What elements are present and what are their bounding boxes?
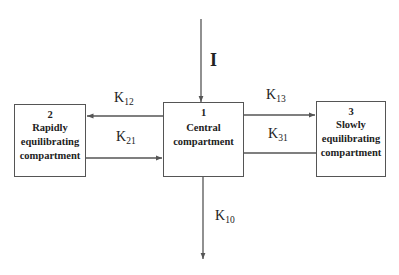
compartment-label-line: compartment: [321, 146, 382, 160]
compartment-number: 2: [47, 108, 52, 121]
compartment-3-slowly-equilibrating: 3 Slowly equilibrating compartment: [316, 101, 386, 177]
compartment-number: 3: [348, 105, 353, 118]
compartment-label-line: compartment: [20, 149, 81, 163]
compartment-label-line: compartment: [173, 135, 234, 149]
input-label: I: [210, 50, 217, 71]
rate-constant-k31: K31: [268, 126, 288, 146]
rate-constant-k13: K13: [266, 87, 286, 107]
compartment-1-central: 1 Central compartment: [163, 102, 244, 177]
compartment-label-line: equilibrating: [21, 135, 79, 149]
compartment-2-rapidly-equilibrating: 2 Rapidly equilibrating compartment: [14, 104, 86, 177]
compartment-label-line: Rapidly: [32, 121, 68, 135]
compartment-label-line: Slowly: [336, 118, 366, 132]
compartment-number: 1: [201, 106, 206, 119]
compartment-label-line: Central: [186, 121, 220, 135]
rate-constant-k10: K10: [215, 208, 235, 228]
compartment-label-line: equilibrating: [322, 132, 380, 146]
rate-constant-k12: K12: [114, 90, 134, 110]
rate-constant-k21: K21: [116, 129, 136, 149]
